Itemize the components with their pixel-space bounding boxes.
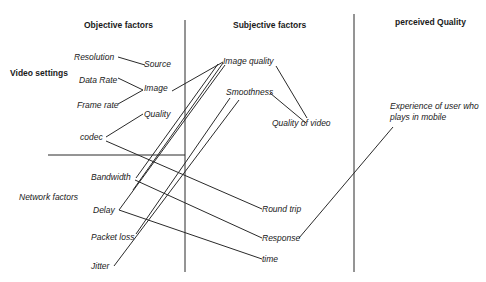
node-round-trip: Round trip xyxy=(262,205,301,214)
node-quality-of-video: Quality of video xyxy=(272,119,331,128)
node-image-quality: Image quality xyxy=(223,57,274,66)
header-subjective-factors: Subjective factors xyxy=(233,21,306,30)
node-source: Source xyxy=(144,60,171,69)
node-experience: Experience of user who plays in mobile xyxy=(390,101,486,122)
node-time: time xyxy=(262,255,278,264)
node-quality: Quality xyxy=(144,110,170,119)
group-video-settings: Video settings xyxy=(10,69,68,78)
group-network-factors: Network factors xyxy=(19,193,78,202)
node-data-rate: Data Rate xyxy=(79,76,117,85)
node-codec: codec xyxy=(80,133,103,142)
node-response: Response xyxy=(262,234,300,243)
node-jitter: Jitter xyxy=(91,262,109,271)
node-image: Image xyxy=(144,84,168,93)
header-objective-factors: Objective factors xyxy=(84,21,153,30)
node-resolution: Resolution xyxy=(74,53,114,62)
node-bandwidth: Bandwidth xyxy=(91,173,131,182)
node-frame-rate: Frame rate xyxy=(77,101,119,110)
node-packet-loss: Packet loss xyxy=(91,233,134,242)
node-delay: Delay xyxy=(93,206,115,215)
header-perceived-quality: perceived Quality xyxy=(395,18,466,27)
connector-lines xyxy=(0,0,486,282)
node-smoothness: Smoothness xyxy=(226,88,273,97)
qoe-diagram: Objective factors Subjective factors per… xyxy=(0,0,486,282)
